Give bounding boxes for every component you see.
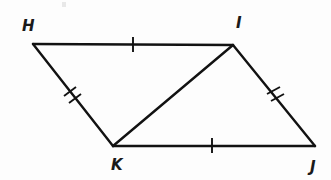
paper-speck xyxy=(62,2,66,7)
vertex-label-i: I xyxy=(236,14,242,32)
geometry-figure: H I K J xyxy=(0,0,331,180)
vertex-label-h: H xyxy=(22,17,35,35)
figure-background xyxy=(0,0,331,180)
vertex-label-k: K xyxy=(111,156,124,174)
geometry-canvas: H I K J xyxy=(0,0,331,180)
